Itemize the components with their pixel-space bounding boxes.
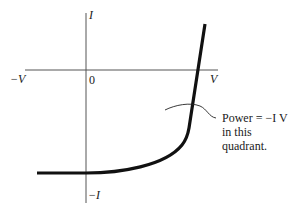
annotation-line-2: in this — [222, 125, 288, 139]
iv-curve — [37, 24, 205, 173]
annotation-line-1: Power = −I V — [222, 111, 288, 125]
x-axis-negative-label: −V — [10, 73, 25, 86]
x-axis-positive-label: V — [210, 73, 217, 86]
y-axis-negative-label: −I — [88, 189, 100, 202]
origin-label: 0 — [89, 74, 95, 87]
diagram-canvas — [0, 0, 300, 206]
y-axis-positive-label: I — [89, 9, 93, 22]
annotation-line-3: quadrant. — [222, 139, 288, 153]
iv-curve-diagram: I −V 0 V −I Power = −I V in this quadran… — [0, 0, 300, 206]
power-annotation: Power = −I V in this quadrant. — [222, 111, 288, 153]
